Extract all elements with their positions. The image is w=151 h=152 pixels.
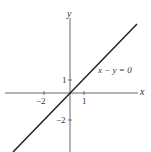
graph-figure: y x −2 1 1 −2 x − y = 0 bbox=[0, 0, 151, 152]
x-axis-label: x bbox=[139, 86, 145, 97]
y-tick-label-neg2: −2 bbox=[56, 115, 66, 125]
y-tick-label-1: 1 bbox=[62, 75, 67, 85]
line-x-minus-y-equals-0 bbox=[13, 24, 137, 152]
equation-label: x − y = 0 bbox=[97, 65, 132, 75]
y-axis-label: y bbox=[66, 8, 72, 19]
x-tick-label-neg2: −2 bbox=[36, 96, 46, 106]
x-tick-label-1: 1 bbox=[82, 96, 87, 106]
